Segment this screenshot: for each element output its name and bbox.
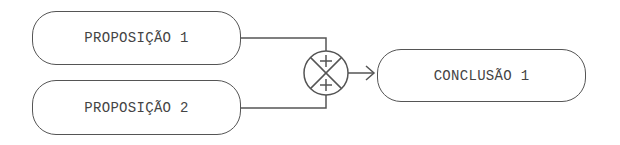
node-conclusao-1: CONCLUSÃO 1 — [377, 49, 586, 102]
node-label: PROPOSIÇÃO 2 — [84, 100, 188, 116]
node-proposicao-1: PROPOSIÇÃO 1 — [32, 11, 241, 65]
node-label: CONCLUSÃO 1 — [434, 68, 530, 84]
node-label: PROPOSIÇÃO 1 — [84, 30, 188, 46]
diagram-canvas: PROPOSIÇÃO 1 PROPOSIÇÃO 2 CONCLUSÃO 1 — [0, 0, 620, 145]
edge-p2-junction — [241, 95, 326, 108]
node-proposicao-2: PROPOSIÇÃO 2 — [32, 80, 241, 135]
summing-junction-icon — [304, 51, 348, 95]
edge-p1-junction — [241, 38, 326, 51]
